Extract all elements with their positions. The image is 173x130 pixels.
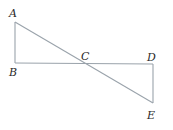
point-label-e: E [146,109,155,122]
point-label-a: A [8,7,17,20]
point-label-c: C [81,50,90,63]
point-label-d: D [146,51,156,64]
geometry-diagram: A B C D E [0,0,173,130]
point-label-b: B [8,66,17,79]
segment-bd [15,63,153,64]
